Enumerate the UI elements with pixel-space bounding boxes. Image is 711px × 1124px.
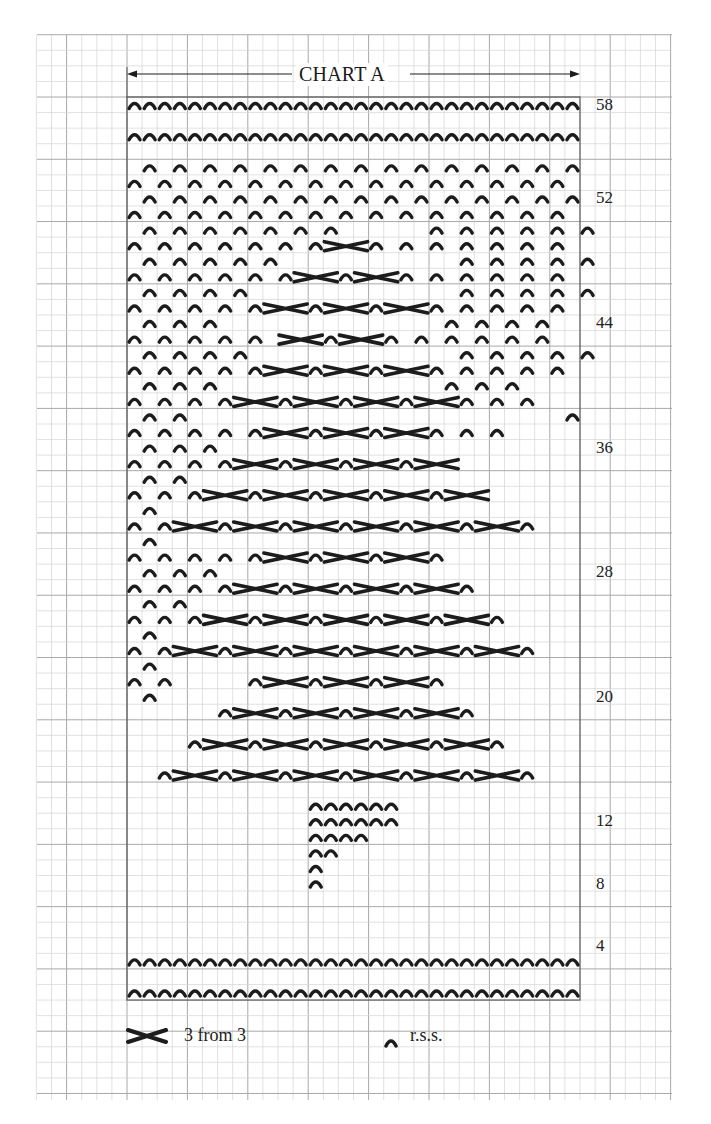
row-label-44: 44 [596, 313, 613, 333]
chart-title: CHART A [296, 63, 388, 86]
row-label-8: 8 [596, 874, 605, 894]
row-label-58: 58 [596, 95, 613, 115]
chart-title-bar: CHART A [0, 58, 711, 88]
row-label-20: 20 [596, 687, 613, 707]
cross-3-from-3-icon [126, 1027, 168, 1045]
row-label-12: 12 [596, 811, 613, 831]
row-label-4: 4 [596, 936, 605, 956]
legend-stitch-label: r.s.s. [410, 1025, 443, 1046]
rss-stitch-icon [384, 1032, 398, 1044]
row-label-28: 28 [596, 562, 613, 582]
row-label-52: 52 [596, 188, 613, 208]
legend-cross-label: 3 from 3 [184, 1025, 246, 1046]
legend: 3 from 3 r.s.s. [0, 1025, 711, 1049]
row-label-36: 36 [596, 438, 613, 458]
